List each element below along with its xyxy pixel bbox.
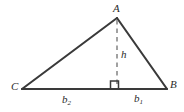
vertex-label-b: B <box>170 79 177 90</box>
base-segment-b1-subscript: 1 <box>140 98 144 106</box>
base-segment-b2-base: b <box>62 93 68 105</box>
vertex-label-a: A <box>113 3 120 14</box>
base-segment-b2-subscript: 2 <box>68 99 72 107</box>
vertex-label-c: C <box>11 81 18 92</box>
triangle-diagram-svg <box>0 0 184 112</box>
base-segment-label-b1: b1 <box>134 93 143 104</box>
altitude-label-h: h <box>121 49 127 60</box>
geometry-figure: A B C h b1 b2 <box>0 0 184 112</box>
side-line-ca <box>22 18 117 89</box>
base-segment-label-b2: b2 <box>62 94 71 105</box>
base-segment-b1-base: b <box>134 92 140 104</box>
